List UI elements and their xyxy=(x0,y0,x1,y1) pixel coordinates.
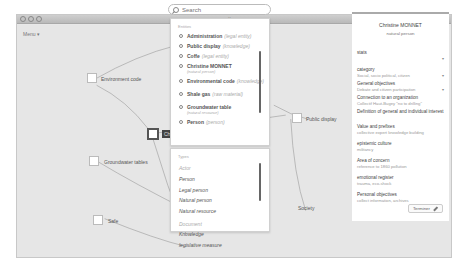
chevron-down-icon[interactable]: ▾ xyxy=(442,87,444,92)
node-groundwater-tables[interactable] xyxy=(89,156,99,166)
entity-icon xyxy=(179,120,183,124)
result-item[interactable]: Christine MONNET(natural person) xyxy=(171,61,269,76)
result-item[interactable]: Public display(knowledge) xyxy=(171,41,269,51)
node-label: Public display xyxy=(306,116,337,122)
result-item[interactable]: Groundwater table(natural resource) xyxy=(171,102,269,117)
type-entry[interactable]: Natural resource xyxy=(171,206,269,217)
types-dropdown: Types Actor Person Legal person Natural … xyxy=(170,148,270,232)
results-scrollbar[interactable] xyxy=(259,51,261,113)
type-group-label: Actor xyxy=(171,161,269,173)
edit-button[interactable]: Terminer xyxy=(408,204,443,213)
field-stats[interactable]: stats ▾ xyxy=(357,50,444,61)
chevron-down-icon[interactable]: ▾ xyxy=(442,56,444,61)
type-entry[interactable]: legislative measure xyxy=(171,240,269,251)
node-label: Safe xyxy=(108,218,118,224)
field-emotional-register[interactable]: emotional register trauma, eco-shock xyxy=(357,175,444,186)
entity-type: natural person xyxy=(357,31,444,36)
search-icon xyxy=(173,7,179,13)
field-personal-objectives[interactable]: Personal objectives collect information,… xyxy=(357,192,444,203)
field-values[interactable]: Value and prefixes collective expert kno… xyxy=(357,124,444,135)
entity-name: Christine MONNET xyxy=(357,22,444,28)
detail-panel: Christine MONNET natural person stats ▾ … xyxy=(352,12,449,221)
chevron-down-icon[interactable]: ▾ xyxy=(442,73,444,78)
type-entry[interactable]: Person xyxy=(171,173,269,184)
search-bar[interactable] xyxy=(168,4,271,15)
type-entry[interactable]: Legal person xyxy=(171,184,269,195)
node-public-display[interactable] xyxy=(292,113,302,123)
result-item[interactable]: Shale gas(raw material) xyxy=(171,89,269,99)
field-definition[interactable]: Definition of general and individual int… xyxy=(357,109,444,114)
entity-icon xyxy=(179,54,183,58)
search-input[interactable] xyxy=(182,7,262,13)
field-connection[interactable]: Connection to an organization Collectif … xyxy=(357,95,444,106)
results-heading: Entities xyxy=(171,19,269,31)
node-environment-code[interactable] xyxy=(87,73,97,83)
node-safe[interactable] xyxy=(93,215,103,225)
search-results-dropdown: Entities Administration(legal entity) Pu… xyxy=(170,18,270,146)
entity-icon xyxy=(179,44,183,48)
type-group-label: Document xyxy=(171,217,269,229)
pencil-icon xyxy=(433,206,438,211)
field-area-of-concern[interactable]: Area of concern reference to 1860 pollut… xyxy=(357,158,444,169)
node-label: Society xyxy=(298,205,314,211)
node-label: Environment code xyxy=(101,76,141,82)
node-label: Groundwater tables xyxy=(104,159,148,165)
field-epistemic-culture[interactable]: epistemic culture militancy xyxy=(357,141,444,152)
type-entry[interactable]: Natural person xyxy=(171,195,269,206)
entity-icon xyxy=(179,105,183,109)
result-item[interactable]: Administration(legal entity) xyxy=(171,31,269,41)
entity-icon xyxy=(179,64,183,68)
result-item[interactable]: Person(person) xyxy=(171,117,269,127)
types-heading: Types xyxy=(171,149,269,161)
type-entry[interactable]: Knowledge xyxy=(171,229,269,240)
result-item[interactable]: Coffe(legal entity) xyxy=(171,51,269,61)
field-general-objectives[interactable]: General objectives Debate and citizen pa… xyxy=(357,81,444,92)
entity-icon xyxy=(179,34,183,38)
entity-icon xyxy=(179,79,183,83)
node-christine[interactable] xyxy=(147,128,159,140)
result-item[interactable]: Environmental code(knowledge) xyxy=(171,76,269,86)
field-category[interactable]: category Social, socio political, citize… xyxy=(357,67,444,78)
types-scrollbar[interactable] xyxy=(259,163,261,201)
entity-icon xyxy=(179,92,183,96)
